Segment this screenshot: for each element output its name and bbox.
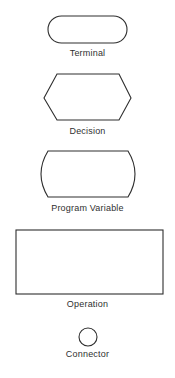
program-variable-label: Program Variable — [0, 203, 175, 213]
connector-label: Connector — [0, 349, 175, 359]
terminal-label: Terminal — [0, 48, 175, 58]
decision-symbol — [44, 74, 131, 120]
terminal-symbol — [48, 16, 127, 43]
connector-symbol — [79, 328, 97, 346]
decision-label: Decision — [0, 126, 175, 136]
operation-symbol — [16, 230, 163, 294]
program-variable-symbol — [41, 151, 135, 197]
operation-label: Operation — [0, 299, 175, 309]
